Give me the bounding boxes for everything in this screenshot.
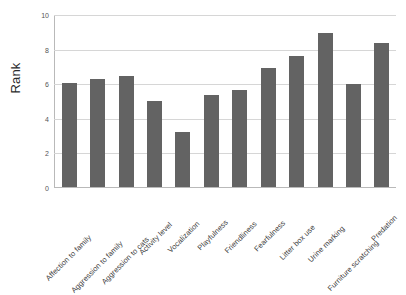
plot-area: 0246810 (54, 15, 396, 188)
bar-slot (368, 15, 396, 187)
bar[interactable] (147, 101, 162, 188)
bar-slot (226, 15, 254, 187)
bar[interactable] (346, 84, 361, 187)
bar-slot (339, 15, 367, 187)
y-axis-tick-label: 2 (45, 150, 49, 157)
bar[interactable] (261, 68, 276, 187)
y-axis-tick-label: 10 (41, 12, 49, 19)
bar[interactable] (62, 83, 77, 187)
bar[interactable] (318, 33, 333, 187)
bar-slot (282, 15, 310, 187)
bar[interactable] (204, 95, 219, 187)
bar-slot (169, 15, 197, 187)
bar[interactable] (90, 79, 105, 187)
bar-slot (311, 15, 339, 187)
bar-slot (254, 15, 282, 187)
y-axis-title: Rank (8, 48, 34, 108)
bar-series (55, 15, 396, 187)
bar-slot (112, 15, 140, 187)
bar-slot (83, 15, 111, 187)
bar[interactable] (119, 76, 134, 187)
y-axis-tick-label: 8 (45, 46, 49, 53)
gridline: 0 (54, 188, 396, 189)
bar-slot (140, 15, 168, 187)
y-axis-tick-label: 6 (45, 81, 49, 88)
y-axis-tick-label: 0 (45, 185, 49, 192)
x-axis-tick-labels: Affection to familyAggression to familyA… (54, 190, 396, 269)
bar-slot (55, 15, 83, 187)
bar[interactable] (289, 56, 304, 187)
bar-slot (197, 15, 225, 187)
bar[interactable] (232, 90, 247, 187)
bar[interactable] (175, 132, 190, 187)
bar[interactable] (374, 43, 389, 187)
y-axis-tick-label: 4 (45, 115, 49, 122)
